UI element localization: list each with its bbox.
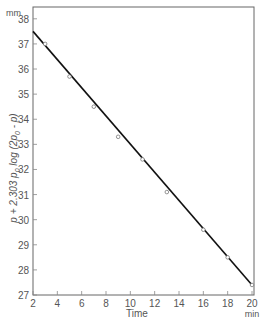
y-axis: 272829303132333435363738 [18, 14, 37, 301]
y-tick-label: 37 [18, 39, 30, 50]
x-axis-title: Time [126, 308, 148, 319]
y-tick-label: 33 [18, 139, 30, 150]
series-group [33, 31, 254, 286]
data-point [68, 75, 72, 79]
x-unit-label: min [245, 309, 260, 319]
x-tick-label: 4 [55, 298, 61, 309]
x-tick-label: 18 [222, 298, 234, 309]
chart: 272829303132333435363738 246810121416182… [0, 0, 264, 321]
y-tick-label: 36 [18, 64, 30, 75]
x-axis: 2468101214161820 [30, 291, 258, 309]
y-tick-label: 27 [18, 290, 30, 301]
y-unit-label: mm [6, 8, 21, 18]
y-tick-label: 34 [18, 114, 30, 125]
data-point [43, 42, 47, 46]
x-tick-label: 16 [198, 298, 210, 309]
y-tick-label: 28 [18, 265, 30, 276]
data-point [250, 283, 254, 287]
data-point [141, 158, 145, 162]
x-tick-label: 20 [246, 298, 258, 309]
y-axis-title: p + 2.303 p0 log (2p0 - p) [8, 113, 21, 223]
data-point [92, 105, 96, 109]
data-point [165, 190, 169, 194]
y-tick-label: 35 [18, 89, 30, 100]
x-tick-label: 2 [30, 298, 36, 309]
y-tick-label: 29 [18, 240, 30, 251]
y-tick-label: 30 [18, 215, 30, 226]
y-tick-label: 31 [18, 190, 30, 201]
data-point [202, 228, 206, 232]
x-tick-label: 6 [79, 298, 85, 309]
data-point [226, 256, 230, 260]
data-point [116, 135, 120, 139]
x-tick-label: 12 [149, 298, 161, 309]
x-tick-label: 14 [173, 298, 185, 309]
plot-frame [33, 7, 254, 295]
x-tick-label: 8 [103, 298, 109, 309]
